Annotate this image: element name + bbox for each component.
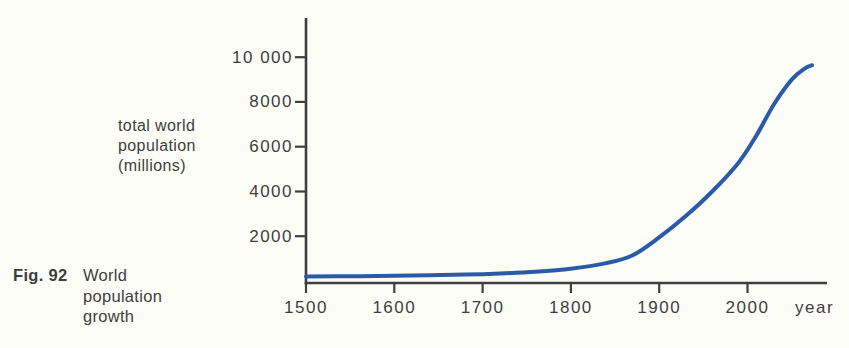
x-tick-label: 1800 bbox=[549, 298, 593, 317]
y-tick-label: 4000 bbox=[249, 182, 293, 201]
y-tick-label: 10 000 bbox=[232, 48, 293, 67]
y-tick-label: 2000 bbox=[249, 227, 293, 246]
x-tick-label: 1700 bbox=[461, 298, 505, 317]
x-tick-label: 1900 bbox=[637, 298, 681, 317]
figure-92-world-population-growth: total world population (millions) Fig. 9… bbox=[0, 0, 849, 348]
x-axis-unit-label: year bbox=[795, 298, 834, 317]
population-curve bbox=[306, 65, 812, 276]
x-tick-label: 1500 bbox=[284, 298, 328, 317]
x-tick-label: 1600 bbox=[372, 298, 416, 317]
y-tick-label: 8000 bbox=[249, 92, 293, 111]
population-line-chart: 200040006000800010 000150016001700180019… bbox=[0, 0, 849, 348]
y-tick-label: 6000 bbox=[249, 137, 293, 156]
x-tick-label: 2000 bbox=[726, 298, 770, 317]
